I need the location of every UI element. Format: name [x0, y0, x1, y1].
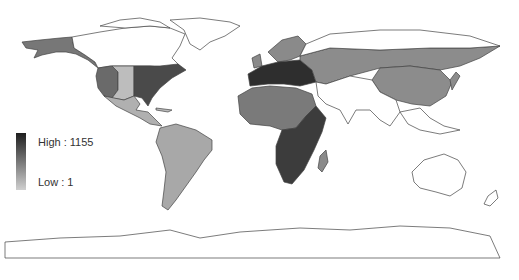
region-southeast-asia[interactable]	[400, 108, 460, 134]
region-canada[interactable]	[72, 26, 185, 68]
region-caribbean[interactable]	[156, 108, 172, 112]
legend-high-label: High : 1155	[38, 136, 93, 148]
region-uk[interactable]	[252, 54, 262, 68]
map-legend: High : 1155 Low : 1	[16, 133, 126, 193]
region-australia[interactable]	[412, 154, 466, 196]
legend-low-label: Low : 1	[38, 176, 73, 188]
region-mexico[interactable]	[104, 96, 162, 126]
region-new-zealand[interactable]	[484, 190, 498, 206]
region-japan[interactable]	[450, 72, 460, 90]
legend-color-bar	[16, 133, 26, 190]
region-eastern-usa[interactable]	[134, 64, 186, 106]
region-madagascar[interactable]	[318, 150, 328, 172]
region-western-usa[interactable]	[96, 66, 118, 98]
region-south-america[interactable]	[156, 124, 212, 210]
region-antarctica[interactable]	[5, 226, 500, 258]
region-arctic-islands[interactable]	[100, 18, 170, 28]
